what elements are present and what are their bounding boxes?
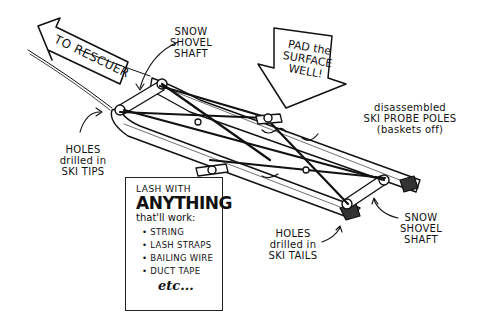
- label-line: HOLES: [54, 144, 112, 155]
- label-line: SKI TAILS: [262, 250, 324, 261]
- probe-poles-label: disassembled SKI PROBE POLES (baskets of…: [355, 102, 465, 135]
- lash-item: STRING: [142, 226, 216, 239]
- lash-etc: etc...: [136, 278, 216, 293]
- label-line: SNOW: [396, 212, 446, 223]
- lash-with-anything-box: LASH WITH ANYTHING that'll work: STRING …: [125, 177, 223, 311]
- lash-item: BAILING WIRE: [142, 252, 216, 265]
- shovel-shaft-bottom-label: SNOW SHOVEL SHAFT: [396, 212, 446, 245]
- lash-items-list: STRING LASH STRAPS BAILING WIRE DUCT TAP…: [136, 226, 216, 278]
- shovel-shaft-top-label: SNOW SHOVEL SHAFT: [168, 26, 214, 59]
- label-line: disassembled: [355, 102, 465, 113]
- lash-item: DUCT TAPE: [142, 265, 216, 278]
- lash-line-2: ANYTHING: [136, 194, 216, 212]
- holes-ski-tails-label: HOLES drilled in SKI TAILS: [262, 228, 324, 261]
- label-line: HOLES: [262, 228, 324, 239]
- label-line: SNOW: [168, 26, 214, 37]
- label-line: drilled in: [54, 155, 112, 166]
- label-line: (baskets off): [355, 124, 465, 135]
- label-line: SHAFT: [168, 48, 214, 59]
- label-line: SHOVEL: [168, 37, 214, 48]
- label-line: SKI PROBE POLES: [355, 113, 465, 124]
- lash-item: LASH STRAPS: [142, 239, 216, 252]
- label-line: SKI TIPS: [54, 166, 112, 177]
- label-line: SHOVEL: [396, 223, 446, 234]
- holes-ski-tips-label: HOLES drilled in SKI TIPS: [54, 144, 112, 177]
- lash-line-3: that'll work:: [136, 212, 216, 223]
- label-line: SHAFT: [396, 234, 446, 245]
- label-line: drilled in: [262, 239, 324, 250]
